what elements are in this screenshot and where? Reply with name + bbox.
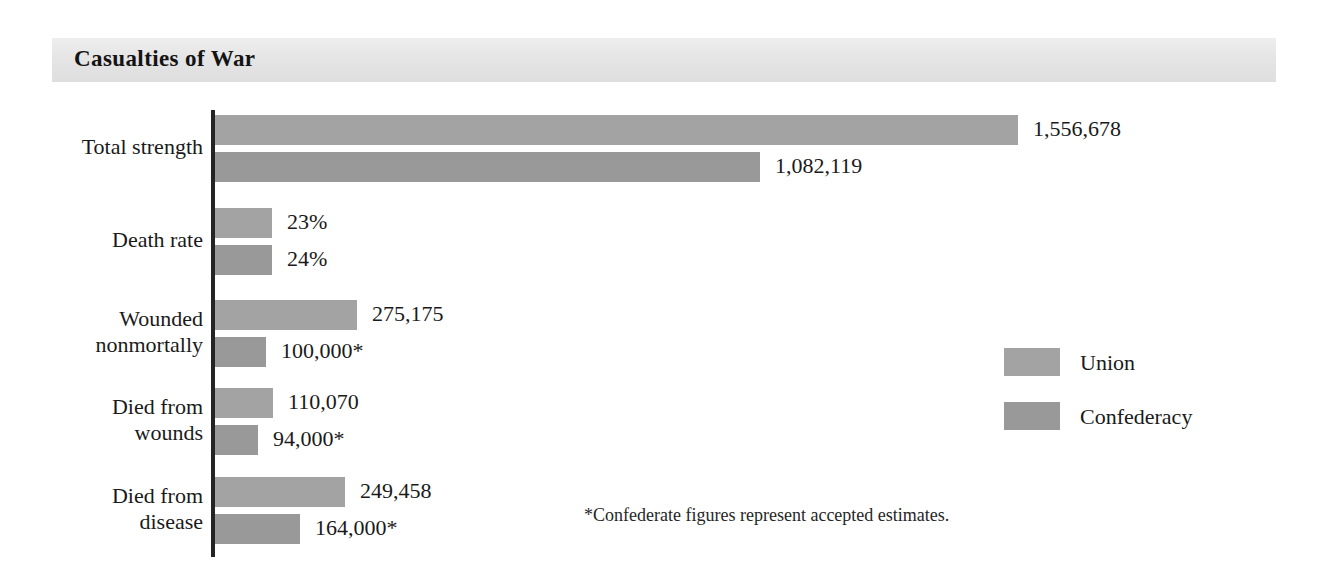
bar-union bbox=[215, 300, 357, 330]
bar-value-union: 249,458 bbox=[360, 478, 432, 504]
bar-confederacy bbox=[215, 337, 266, 367]
bar-confederacy bbox=[215, 514, 300, 544]
bar-confederacy bbox=[215, 425, 258, 455]
bar-row-union: 249,458 bbox=[215, 477, 345, 507]
bar-value-union: 1,556,678 bbox=[1033, 116, 1121, 142]
bar-value-confederacy: 164,000* bbox=[315, 515, 398, 541]
chart-canvas: Casualties of War Total strength 1,556,6… bbox=[0, 0, 1337, 577]
bar-row-union: 275,175 bbox=[215, 300, 357, 330]
category-label: Death rate bbox=[0, 227, 203, 253]
category-label: Total strength bbox=[0, 134, 203, 160]
bar-row-union: 1,556,678 bbox=[215, 115, 1018, 145]
legend-swatch-icon bbox=[1004, 348, 1060, 376]
bar-row-confederacy: 100,000* bbox=[215, 337, 266, 367]
bar-union bbox=[215, 388, 273, 418]
bar-row-union: 110,070 bbox=[215, 388, 273, 418]
bar-value-union: 23% bbox=[287, 209, 327, 235]
bar-confederacy bbox=[215, 245, 272, 275]
legend-swatch-icon bbox=[1004, 402, 1060, 430]
bar-value-confederacy: 94,000* bbox=[273, 426, 345, 452]
bar-row-confederacy: 24% bbox=[215, 245, 272, 275]
category-label: Died from disease bbox=[0, 483, 203, 535]
bar-value-confederacy: 1,082,119 bbox=[775, 153, 862, 179]
bar-value-confederacy: 100,000* bbox=[281, 338, 364, 364]
bar-row-confederacy: 1,082,119 bbox=[215, 152, 760, 182]
bar-value-union: 275,175 bbox=[372, 301, 444, 327]
chart-footnote: *Confederate figures represent accepted … bbox=[584, 505, 949, 526]
bar-value-union: 110,070 bbox=[288, 389, 359, 415]
legend-label: Confederacy bbox=[1080, 404, 1192, 430]
bar-union bbox=[215, 115, 1018, 145]
chart-title-banner: Casualties of War bbox=[52, 38, 1276, 82]
category-label: Wounded nonmortally bbox=[0, 306, 203, 358]
bar-row-union: 23% bbox=[215, 208, 272, 238]
bar-union bbox=[215, 208, 272, 238]
legend-label: Union bbox=[1080, 350, 1135, 376]
category-label: Died from wounds bbox=[0, 394, 203, 446]
bar-row-confederacy: 94,000* bbox=[215, 425, 258, 455]
bar-union bbox=[215, 477, 345, 507]
bar-confederacy bbox=[215, 152, 760, 182]
page-title: Casualties of War bbox=[74, 46, 255, 72]
bar-row-confederacy: 164,000* bbox=[215, 514, 300, 544]
bar-value-confederacy: 24% bbox=[287, 246, 327, 272]
